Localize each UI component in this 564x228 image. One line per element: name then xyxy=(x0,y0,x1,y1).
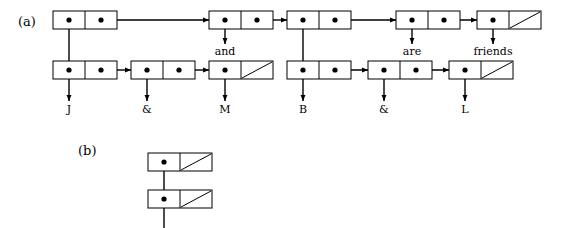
top-cell-4 xyxy=(396,11,460,29)
leaf-label-amp-1: & xyxy=(142,103,152,116)
top-cell-1-car-dot xyxy=(66,17,71,22)
bottom-cell-5-cdr-dot xyxy=(413,67,418,72)
bottom-cell-2 xyxy=(131,61,195,79)
bottom-cell-5-car-dot xyxy=(381,67,386,72)
panel-b-cell-2 xyxy=(148,190,212,208)
bottom-cell-3-car-dot xyxy=(222,67,227,72)
leaf-label-b: B xyxy=(299,103,307,116)
top-cell-5 xyxy=(477,11,541,29)
top-cell-1-cdr-dot xyxy=(98,17,103,22)
top-cell-4-car-dot xyxy=(409,17,414,22)
cons-cell-diagram: (a)(b) J&MB&Landarefriends xyxy=(0,0,564,228)
bottom-cell-1 xyxy=(53,61,117,79)
mid-label-friends: friends xyxy=(473,45,512,58)
top-cell-3-car-dot xyxy=(300,17,305,22)
top-cell-2 xyxy=(209,11,273,29)
panel-label-a: (a) xyxy=(18,14,36,29)
bottom-cell-6-car-dot xyxy=(462,67,467,72)
top-cell-2-car-dot xyxy=(222,17,227,22)
leaf-label-m: M xyxy=(219,103,230,116)
bottom-cell-1-cdr-dot xyxy=(98,67,103,72)
bottom-cell-4-cdr-dot xyxy=(332,67,337,72)
bottom-cell-5 xyxy=(368,61,432,79)
bottom-cell-2-cdr-dot xyxy=(176,67,181,72)
top-cell-5-car-dot xyxy=(490,17,495,22)
mid-label-and: and xyxy=(215,45,236,58)
top-cell-4-cdr-dot xyxy=(441,17,446,22)
mid-label-are: are xyxy=(403,45,421,58)
bottom-cell-1-car-dot xyxy=(66,67,71,72)
bottom-cell-6 xyxy=(449,61,513,79)
panel-b-cell-2-car-dot xyxy=(161,196,166,201)
top-cell-3-cdr-dot xyxy=(332,17,337,22)
bottom-cell-4 xyxy=(287,61,351,79)
panel-b-cell-1-car-dot xyxy=(161,159,166,164)
leaf-label-l: L xyxy=(461,103,469,116)
bottom-cell-4-car-dot xyxy=(300,67,305,72)
bottom-cell-3 xyxy=(209,61,273,79)
bottom-cell-2-car-dot xyxy=(144,67,149,72)
top-cell-1 xyxy=(53,11,117,29)
canvas-background xyxy=(0,0,564,228)
leaf-label-j: J xyxy=(66,103,71,116)
panel-label-b: (b) xyxy=(78,143,96,158)
top-cell-2-cdr-dot xyxy=(254,17,259,22)
panel-b-cell-1 xyxy=(148,153,212,171)
leaf-label-amp-2: & xyxy=(379,103,389,116)
top-cell-3 xyxy=(287,11,351,29)
